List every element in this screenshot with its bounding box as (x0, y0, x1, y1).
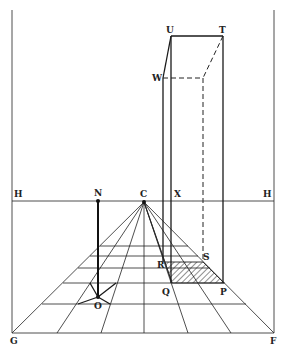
label-h-right: H (263, 189, 272, 199)
label-c: C (140, 189, 147, 199)
label-g: G (10, 336, 18, 346)
label-r: R (157, 260, 165, 270)
label-q: Q (162, 287, 170, 297)
label-p: P (220, 287, 227, 297)
label-t: T (219, 25, 226, 35)
label-w: W (151, 73, 163, 83)
hatched-floor-square (165, 262, 224, 283)
observer-figure (78, 199, 116, 304)
frame (12, 10, 274, 333)
label-s: S (203, 252, 210, 262)
label-x: X (174, 189, 181, 199)
label-u: U (166, 25, 174, 35)
perspective-diagram: U T W H N C X H R S Q P O G F (0, 0, 282, 352)
label-h-left: H (14, 189, 23, 199)
label-o: O (94, 301, 102, 311)
vanishing-point-c (142, 200, 146, 204)
orthogonal-lines (12, 202, 274, 333)
label-n: N (94, 188, 102, 198)
label-f: F (270, 336, 277, 346)
